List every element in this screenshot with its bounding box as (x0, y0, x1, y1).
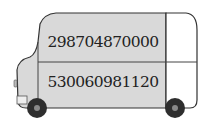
headlight (14, 80, 17, 87)
front-wheel-hub (34, 105, 40, 111)
bus-illustration (0, 0, 209, 128)
bumper (17, 96, 27, 104)
top-panel-number: 298704870000 (42, 33, 164, 51)
bus-body (17, 13, 166, 108)
bottom-panel-number: 530060981120 (42, 73, 164, 91)
bus-rear-section (166, 13, 197, 108)
rear-wheel-hub (172, 105, 178, 111)
